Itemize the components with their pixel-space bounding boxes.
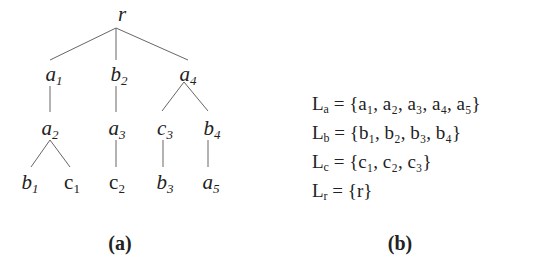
caption-b: (b) <box>388 232 412 255</box>
tree-node-a4: a4 <box>180 64 197 87</box>
tree-node-c1: c1 <box>64 172 80 195</box>
tree-node-b4: b4 <box>204 118 221 141</box>
tree-node-a1: a1 <box>46 64 63 87</box>
caption-a: (a) <box>108 232 131 255</box>
label-set-members: {a₁, a₂, a₃, a₄, a₅} <box>349 93 481 114</box>
label-set-c: Lc = {c₁, c₂, c₃} <box>312 150 481 179</box>
label-set-r: Lr = {r} <box>312 179 481 208</box>
label-sets: La = {a₁, a₂, a₃, a₄, a₅} Lb = {b₁, b₂, … <box>312 92 481 208</box>
tree-edge <box>31 140 50 167</box>
label-set-b: Lb = {b₁, b₂, b₃, b₄} <box>312 121 481 150</box>
tree-node-b2: b2 <box>111 64 128 87</box>
tree-edge <box>50 140 70 167</box>
label-set-members: {r} <box>348 180 373 201</box>
label-set-members: {b₁, b₂, b₃, b₄} <box>350 122 461 143</box>
tree-node-b1: b1 <box>22 172 39 195</box>
tree-node-c3: c3 <box>157 118 173 141</box>
tree-node-a5: a5 <box>203 172 220 195</box>
tree-node-r: r <box>118 4 126 25</box>
tree-node-a2: a2 <box>42 118 59 141</box>
label-set-a: La = {a₁, a₂, a₃, a₄, a₅} <box>312 92 481 121</box>
tree-node-a3: a3 <box>109 118 126 141</box>
tree-edge <box>50 28 116 60</box>
tree-node-c2: c2 <box>109 172 125 195</box>
tree-node-b3: b3 <box>157 172 174 195</box>
tree-diagram <box>0 0 260 210</box>
tree-edge <box>116 28 188 60</box>
label-set-members: {c₁, c₂, c₃} <box>349 151 431 172</box>
